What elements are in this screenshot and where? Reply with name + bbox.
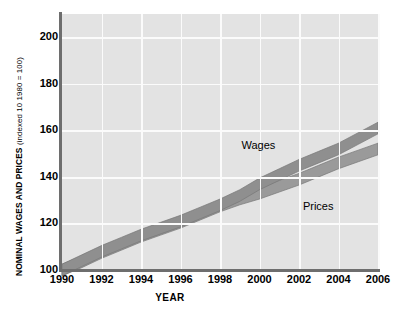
y-axis-ticks: 100120140160180200 (22, 0, 58, 285)
x-axis-title: YEAR (0, 292, 404, 303)
y-axis-line (59, 12, 62, 272)
y-tick-label: 200 (24, 31, 58, 42)
gridline-vertical (339, 14, 341, 270)
gridline-vertical (220, 14, 222, 270)
series-label-wages: Wages (242, 140, 276, 151)
y-tick-label: 120 (24, 217, 58, 228)
x-axis-line (59, 269, 380, 272)
x-tick-label: 1992 (89, 274, 113, 285)
x-tick-label: 2002 (287, 274, 311, 285)
x-tick-label: 1996 (168, 274, 192, 285)
gridline-vertical (102, 14, 104, 270)
x-tick-label: 1994 (129, 274, 153, 285)
x-axis-ticks: 199019921994199619982000200220042006 (0, 274, 404, 292)
y-tick-label: 160 (24, 124, 58, 135)
x-axis-title-text: YEAR (155, 292, 184, 303)
gridline-horizontal (62, 84, 378, 86)
plot-area (62, 14, 378, 270)
gridline-horizontal (62, 130, 378, 132)
gridline-horizontal (62, 223, 378, 225)
gridline-horizontal (62, 177, 378, 179)
x-tick-label: 1998 (208, 274, 232, 285)
gridline-vertical (181, 14, 183, 270)
gridline-vertical (378, 14, 380, 270)
y-tick-label: 140 (24, 171, 58, 182)
chart-container: NOMINAL WAGES AND PRICES (indexed 10 198… (0, 0, 404, 321)
y-tick-label: 180 (24, 78, 58, 89)
series-label-prices: Prices (303, 201, 334, 212)
gridline-horizontal (62, 37, 378, 39)
x-tick-label: 2000 (247, 274, 271, 285)
gridline-vertical (299, 14, 301, 270)
x-tick-label: 2006 (366, 274, 390, 285)
gridline-vertical (141, 14, 143, 270)
x-tick-label: 1990 (50, 274, 74, 285)
x-tick-label: 2004 (326, 274, 350, 285)
